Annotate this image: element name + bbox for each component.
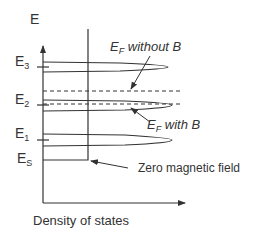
arrow-zero-field — [91, 161, 128, 168]
ef-without-b-text: without B — [124, 39, 181, 54]
diagram-graphics — [0, 0, 272, 238]
level-label-e3: E3 — [15, 54, 29, 71]
annotation-zero-field: Zero magnetic field — [138, 162, 240, 174]
level-subscript: 2 — [24, 99, 29, 109]
y-axis-label: E — [30, 12, 39, 26]
level-name: E — [15, 125, 24, 141]
level-subscript: 1 — [24, 133, 29, 143]
ef-with-b-text: with B — [161, 117, 200, 132]
annotation-ef-without-b: EF without B — [110, 40, 181, 56]
landau-peak-e2 — [43, 100, 172, 111]
level-label-e1: E1 — [15, 126, 29, 143]
level-subscript: S — [26, 158, 32, 168]
annotation-ef-with-b: EF with B — [147, 118, 200, 134]
level-name: E — [17, 150, 26, 166]
x-axis-label: Density of states — [33, 214, 129, 227]
ef-symbol: E — [147, 117, 156, 132]
ef-symbol: E — [110, 39, 119, 54]
level-subscript: 3 — [24, 61, 29, 71]
arrow-ef-without-b — [131, 56, 150, 89]
level-label-es: ES — [17, 151, 32, 168]
level-label-e2: E2 — [15, 92, 29, 109]
landau-peak-e1 — [43, 134, 172, 146]
level-name: E — [15, 91, 24, 107]
landau-levels-diagram: E Density of states E3 E2 E1 ES EF witho… — [0, 0, 272, 238]
level-name: E — [15, 53, 24, 69]
zero-field-dos-curve — [43, 29, 88, 160]
landau-peak-e3 — [43, 62, 168, 72]
